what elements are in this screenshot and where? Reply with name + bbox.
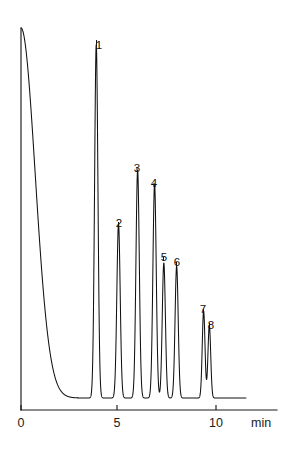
x-axis-unit-label: min (251, 417, 271, 430)
chromatogram-plot (0, 0, 295, 450)
axes-group (21, 28, 277, 410)
peak-label-3: 3 (134, 163, 140, 175)
peak-label-6: 6 (174, 257, 180, 269)
x-axis-tick-label-5: 5 (114, 417, 121, 430)
chromatogram-figure: 0510 12345678 min (0, 0, 295, 450)
x-axis-ticks (21, 405, 216, 410)
peak-label-4: 4 (151, 178, 157, 190)
peak-label-1: 1 (96, 40, 102, 52)
x-axis-tick-label-0: 0 (18, 417, 25, 430)
peak-label-7: 7 (200, 304, 206, 316)
peak-label-5: 5 (161, 252, 167, 264)
data-trace-group (21, 28, 246, 398)
peak-label-8: 8 (208, 320, 214, 332)
x-axis-tick-label-10: 10 (209, 417, 223, 430)
detector-signal-trace (21, 28, 246, 398)
peak-label-2: 2 (116, 218, 122, 230)
